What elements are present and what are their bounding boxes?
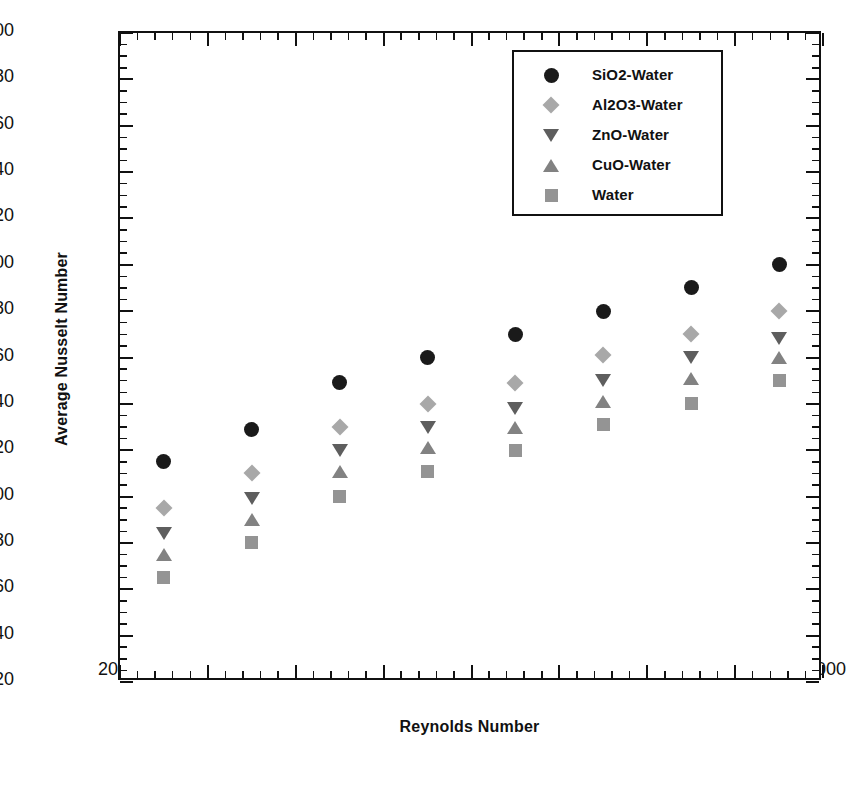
marker-diamond-icon (419, 395, 436, 412)
x-tick-minor (805, 671, 807, 678)
x-tick-major (734, 33, 736, 46)
y-tick-minor (812, 670, 819, 672)
x-tick-minor (488, 671, 490, 678)
x-tick-minor (576, 671, 578, 678)
marker-triangle-up-icon (543, 159, 559, 172)
x-tick-minor (260, 671, 262, 678)
x-tick-major (207, 665, 209, 678)
y-tick-minor (120, 600, 127, 602)
marker-triangle-down-icon (507, 402, 523, 415)
y-tick-label: 220 (0, 206, 14, 224)
x-tick-major (207, 33, 209, 46)
x-tick-minor (242, 671, 244, 678)
y-tick-minor (120, 148, 127, 150)
y-tick-minor (120, 44, 127, 46)
legend-item: Water (514, 180, 725, 211)
marker-circle-icon (596, 304, 611, 319)
y-tick-minor (812, 55, 819, 57)
x-tick-minor (277, 671, 279, 678)
marker-diamond-icon (243, 465, 260, 482)
y-tick-minor (120, 276, 127, 278)
y-tick-minor (812, 612, 819, 614)
x-tick-minor (137, 33, 139, 40)
x-tick-minor (787, 33, 789, 40)
y-tick-major (806, 449, 819, 451)
y-tick-minor (812, 241, 819, 243)
marker-square-icon (333, 490, 346, 503)
y-tick-minor (120, 113, 127, 115)
y-tick-major (120, 125, 133, 127)
legend-item: ZnO-Water (514, 120, 725, 151)
y-tick-minor (812, 90, 819, 92)
x-tick-minor (436, 33, 438, 40)
marker-triangle-down-icon (595, 374, 611, 387)
marker-triangle-up-icon (420, 441, 436, 454)
y-tick-minor (812, 148, 819, 150)
y-tick-label: 240 (0, 160, 14, 178)
x-tick-minor (225, 33, 227, 40)
x-tick-minor (172, 671, 174, 678)
x-tick-minor (260, 33, 262, 40)
x-tick-minor (594, 33, 596, 40)
y-tick-minor (120, 322, 127, 324)
y-tick-major (806, 357, 819, 359)
x-tick-minor (664, 671, 666, 678)
y-tick-minor (812, 600, 819, 602)
x-tick-major (383, 33, 385, 46)
x-tick-minor (172, 33, 174, 40)
y-tick-major (120, 496, 133, 498)
x-tick-minor (365, 671, 367, 678)
x-tick-minor (190, 33, 192, 40)
y-tick-minor (120, 90, 127, 92)
legend-label: SiO2-Water (592, 66, 673, 83)
x-tick-minor (453, 33, 455, 40)
legend-item: SiO2-Water (514, 60, 725, 91)
y-tick-minor (120, 241, 127, 243)
x-tick-minor (400, 33, 402, 40)
y-tick-major (806, 264, 819, 266)
marker-triangle-down-icon (156, 527, 172, 540)
y-tick-minor (812, 276, 819, 278)
x-tick-minor (506, 671, 508, 678)
legend: SiO2-WaterAl2O3-WaterZnO-WaterCuO-WaterW… (512, 50, 723, 216)
y-tick-label: 140 (0, 392, 14, 410)
x-tick-minor (506, 33, 508, 40)
y-tick-minor (812, 183, 819, 185)
legend-label: CuO-Water (592, 156, 671, 173)
x-tick-minor (523, 671, 525, 678)
marker-triangle-up-icon (595, 395, 611, 408)
x-tick-major (558, 665, 560, 678)
y-tick-major (120, 403, 133, 405)
y-tick-minor (812, 368, 819, 370)
y-axis-title: Average Nusselt Number (53, 199, 71, 499)
y-tick-minor (120, 473, 127, 475)
x-tick-minor (277, 33, 279, 40)
y-tick-major (120, 542, 133, 544)
y-tick-label: 20 (0, 670, 14, 688)
y-tick-minor (812, 415, 819, 417)
x-tick-major (119, 665, 121, 678)
legend-label: ZnO-Water (592, 126, 669, 143)
y-tick-minor (812, 577, 819, 579)
y-tick-minor (812, 461, 819, 463)
y-tick-major (806, 171, 819, 173)
y-tick-minor (812, 322, 819, 324)
y-tick-minor (812, 531, 819, 533)
x-tick-major (295, 33, 297, 46)
y-tick-major (120, 217, 133, 219)
y-tick-label: 160 (0, 346, 14, 364)
x-tick-minor (682, 33, 684, 40)
y-tick-minor (812, 299, 819, 301)
x-tick-minor (611, 671, 613, 678)
y-tick-minor (120, 229, 127, 231)
x-tick-major (119, 33, 121, 46)
y-tick-minor (120, 484, 127, 486)
y-tick-minor (120, 392, 127, 394)
x-tick-minor (400, 671, 402, 678)
x-tick-major (295, 665, 297, 678)
x-tick-minor (664, 33, 666, 40)
x-tick-minor (154, 33, 156, 40)
marker-square-icon (509, 444, 522, 457)
marker-triangle-up-icon (332, 465, 348, 478)
x-tick-minor (752, 33, 754, 40)
